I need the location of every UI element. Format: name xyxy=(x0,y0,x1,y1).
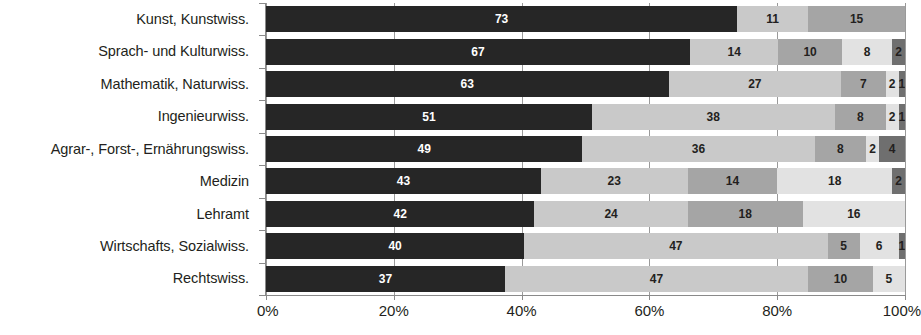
bar-segment[interactable]: 8 xyxy=(835,104,886,130)
bar-segment-value: 8 xyxy=(864,46,871,58)
bar-segment[interactable]: 36 xyxy=(582,136,814,162)
bar-segment[interactable]: 18 xyxy=(777,168,892,194)
bar-segment-value: 5 xyxy=(840,240,847,252)
plot-area: 7311150067141082632772151388214936824432… xyxy=(266,3,905,295)
bar-segment-value: 14 xyxy=(726,175,739,187)
bar-segment-value: 67 xyxy=(471,46,484,58)
bar-segment-value: 10 xyxy=(803,46,816,58)
bar-segment[interactable]: 8 xyxy=(842,39,893,65)
bar-segment[interactable]: 16 xyxy=(803,201,905,227)
stacked-bar[interactable]: 4936824 xyxy=(266,136,905,162)
y-axis-tick xyxy=(259,165,265,166)
bar-row: 6327721 xyxy=(266,68,905,100)
bar-segment[interactable]: 63 xyxy=(266,71,669,97)
bar-segment[interactable]: 23 xyxy=(541,168,688,194)
y-axis-tick xyxy=(259,295,265,296)
bar-segment-value: 1 xyxy=(899,240,905,252)
bar-segment[interactable]: 14 xyxy=(688,168,777,194)
bar-segment[interactable]: 2 xyxy=(886,104,899,130)
x-axis-label: 0% xyxy=(257,303,279,318)
bar-segment[interactable]: 5 xyxy=(873,266,905,292)
bar-segment[interactable]: 2 xyxy=(892,39,905,65)
y-axis-tick xyxy=(259,100,265,101)
bar-segment[interactable]: 15 xyxy=(808,6,905,32)
bar-segment[interactable]: 24 xyxy=(534,201,687,227)
y-axis-tick xyxy=(259,198,265,199)
bar-segment[interactable]: 49 xyxy=(266,136,582,162)
bar-segment-value: 49 xyxy=(417,143,430,155)
clipped-caption-sliver xyxy=(86,326,886,335)
bar-row: 432314182 xyxy=(266,165,905,197)
category-label: Medizin xyxy=(0,165,258,197)
x-axis-label: 40% xyxy=(507,303,537,318)
bar-segment-value: 8 xyxy=(837,143,844,155)
x-axis-tick xyxy=(522,295,523,300)
bar-segment[interactable]: 67 xyxy=(266,39,690,65)
bar-segment[interactable]: 14 xyxy=(690,39,779,65)
bar-segment[interactable]: 11 xyxy=(737,6,808,32)
bar-segment[interactable]: 40 xyxy=(266,233,524,259)
bar-segment[interactable]: 42 xyxy=(266,201,534,227)
bar-segment-value: 2 xyxy=(889,111,896,123)
bar-segment-value: 2 xyxy=(895,46,902,58)
stacked-bar[interactable]: 5138821 xyxy=(266,104,905,130)
bar-segment[interactable]: 38 xyxy=(592,104,835,130)
bar-segment[interactable]: 10 xyxy=(778,39,841,65)
bar-segment[interactable]: 2 xyxy=(886,71,899,97)
bar-segment[interactable]: 1 xyxy=(899,233,905,259)
bar-segment[interactable]: 2 xyxy=(866,136,879,162)
bar-segment[interactable]: 7 xyxy=(841,71,886,97)
bar-segment-value: 16 xyxy=(847,208,860,220)
bar-segment[interactable]: 73 xyxy=(266,6,737,32)
bar-segment[interactable]: 27 xyxy=(669,71,842,97)
stacked-bar[interactable]: 432314182 xyxy=(266,168,905,194)
category-label: Ingenieurwiss. xyxy=(0,100,258,132)
bar-segment[interactable]: 1 xyxy=(899,104,905,130)
y-axis-tick xyxy=(259,35,265,36)
stacked-bar[interactable]: 67141082 xyxy=(266,39,905,65)
bar-segment[interactable]: 51 xyxy=(266,104,592,130)
bar-row: 422418160 xyxy=(266,198,905,230)
bar-segment[interactable]: 47 xyxy=(524,233,827,259)
bar-row: 5138821 xyxy=(266,100,905,132)
bar-segment-value: 10 xyxy=(834,273,847,285)
bar-segment[interactable]: 43 xyxy=(266,168,541,194)
gridline xyxy=(905,3,906,295)
y-axis-tick xyxy=(259,68,265,69)
bar-segment[interactable]: 37 xyxy=(266,266,505,292)
stacked-bar[interactable]: 422418160 xyxy=(266,201,905,227)
bar-segment[interactable]: 47 xyxy=(505,266,808,292)
bar-series-container: 7311150067141082632772151388214936824432… xyxy=(266,3,905,295)
bar-segment-value: 2 xyxy=(869,143,876,155)
bar-segment-value: 1 xyxy=(899,111,905,123)
bar-row: 4936824 xyxy=(266,133,905,165)
bar-segment-value: 11 xyxy=(766,13,779,25)
bar-segment-value: 42 xyxy=(394,208,407,220)
bar-segment[interactable]: 2 xyxy=(892,168,905,194)
bar-segment[interactable]: 6 xyxy=(860,233,899,259)
x-axis-tick xyxy=(649,295,650,300)
bar-segment[interactable]: 4 xyxy=(879,136,905,162)
bar-segment-value: 5 xyxy=(885,273,892,285)
category-label: Sprach- und Kulturwiss. xyxy=(0,35,258,67)
bar-segment-value: 2 xyxy=(895,175,902,187)
category-label: Rechtswiss. xyxy=(0,263,258,295)
bar-row: 4047561 xyxy=(266,230,905,262)
bar-segment-value: 2 xyxy=(889,78,896,90)
category-label: Kunst, Kunstwiss. xyxy=(0,3,258,35)
bar-segment-value: 37 xyxy=(379,273,392,285)
bar-segment-value: 24 xyxy=(604,208,617,220)
stacked-bar[interactable]: 4047561 xyxy=(266,233,905,259)
stacked-bar[interactable]: 37471050 xyxy=(266,266,905,292)
stacked-bar[interactable]: 6327721 xyxy=(266,71,905,97)
bar-segment[interactable]: 8 xyxy=(815,136,867,162)
bar-segment[interactable]: 5 xyxy=(828,233,860,259)
stacked-bar[interactable]: 73111500 xyxy=(266,6,905,32)
category-label: Agrar-, Forst-, Ernährungswiss. xyxy=(0,133,258,165)
y-axis-tick xyxy=(259,263,265,264)
bar-segment[interactable]: 10 xyxy=(808,266,873,292)
bar-segment[interactable]: 1 xyxy=(899,71,905,97)
x-axis-labels: 0%20%40%60%80%100% xyxy=(266,303,905,325)
bar-segment[interactable]: 18 xyxy=(688,201,803,227)
